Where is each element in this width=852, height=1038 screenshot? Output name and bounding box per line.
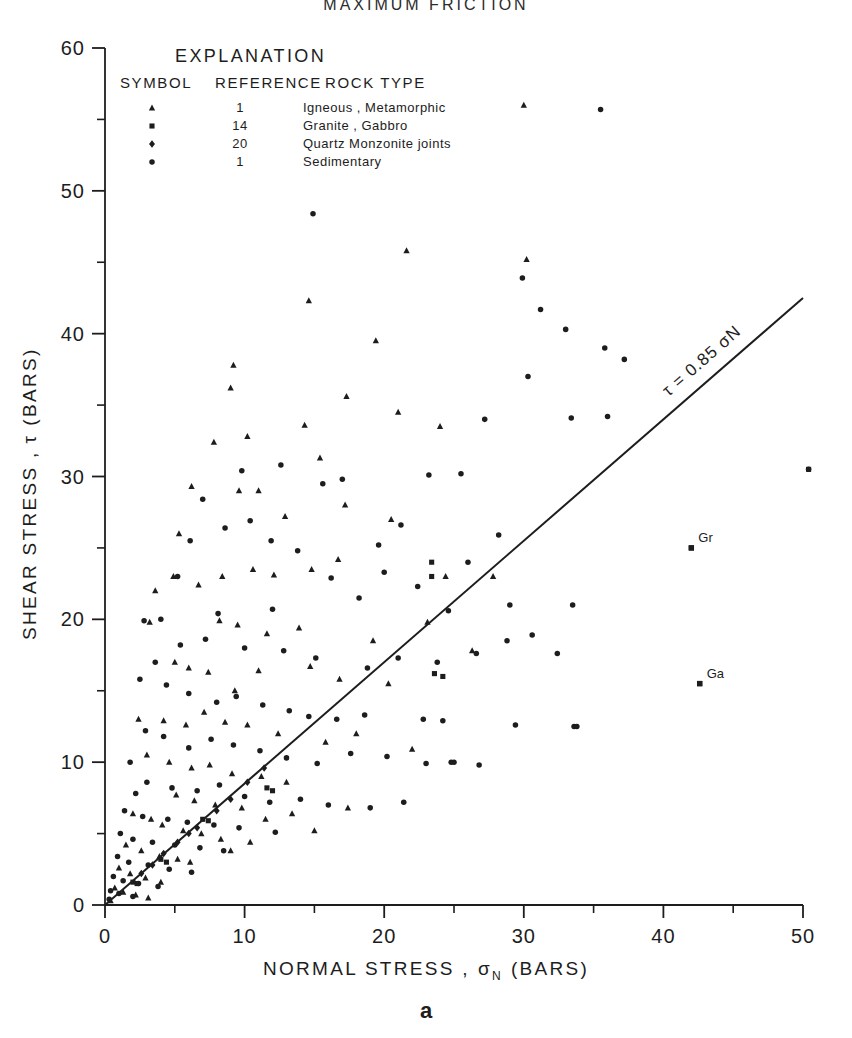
legend-row: 14Granite , Gabbro bbox=[149, 118, 407, 133]
data-point-circle bbox=[525, 374, 531, 380]
data-point-circle bbox=[367, 805, 373, 811]
data-point-circle bbox=[126, 859, 132, 865]
data-point-square bbox=[689, 545, 694, 550]
y-tick-label: 10 bbox=[61, 751, 85, 773]
data-point-triangle bbox=[227, 847, 233, 853]
data-point-circle bbox=[158, 617, 164, 623]
data-point-triangle bbox=[142, 874, 148, 880]
legend-header-reference: REFERENCE bbox=[215, 74, 322, 91]
data-point-circle bbox=[574, 724, 580, 730]
data-point-circle bbox=[538, 307, 544, 313]
data-point-circle bbox=[187, 538, 193, 544]
data-point-circle bbox=[482, 417, 488, 423]
data-point-circle bbox=[598, 107, 604, 113]
figure-title: MAXIMUM FRICTION bbox=[0, 0, 852, 14]
data-point-triangle bbox=[336, 676, 342, 682]
data-point-triangle bbox=[264, 630, 270, 636]
data-point-circle bbox=[602, 345, 608, 351]
data-point-circle bbox=[284, 755, 290, 761]
x-tick-label: 10 bbox=[232, 925, 256, 947]
x-tick-label: 30 bbox=[512, 925, 536, 947]
legend-rock-type: Granite , Gabbro bbox=[303, 118, 408, 133]
data-point-circle bbox=[287, 708, 293, 714]
data-point-circle bbox=[504, 638, 510, 644]
data-point-circle bbox=[306, 714, 312, 720]
data-point-circle bbox=[281, 648, 287, 654]
data-point-circle bbox=[605, 414, 611, 420]
data-point-triangle bbox=[187, 859, 193, 865]
series-triangle bbox=[107, 102, 529, 904]
data-point-triangle bbox=[409, 746, 415, 752]
data-point-triangle bbox=[229, 770, 235, 776]
data-point-triangle bbox=[244, 433, 250, 439]
data-point-triangle bbox=[176, 530, 182, 536]
data-point-circle bbox=[141, 618, 147, 624]
data-point-circle bbox=[236, 825, 242, 831]
data-point-circle bbox=[165, 817, 171, 823]
data-point-circle bbox=[496, 532, 502, 538]
data-point-circle bbox=[365, 665, 371, 671]
data-point-triangle bbox=[521, 102, 527, 108]
data-point-square bbox=[135, 881, 140, 886]
data-point-circle bbox=[278, 462, 284, 468]
data-point-triangle bbox=[343, 393, 349, 399]
data-point-triangle bbox=[307, 663, 313, 669]
data-point-triangle bbox=[135, 716, 141, 722]
y-axis-title-symbol: τ bbox=[19, 434, 40, 444]
series-circle bbox=[106, 107, 811, 902]
y-tick-label: 50 bbox=[61, 180, 85, 202]
data-point-triangle bbox=[145, 894, 151, 900]
data-point-triangle bbox=[160, 717, 166, 723]
data-point-triangle bbox=[306, 297, 312, 303]
data-point-triangle bbox=[342, 502, 348, 508]
data-point-triangle bbox=[230, 362, 236, 368]
data-point-circle bbox=[211, 822, 217, 828]
data-point-triangle bbox=[159, 822, 165, 828]
data-point-circle bbox=[130, 894, 136, 900]
data-point-circle bbox=[111, 874, 117, 880]
data-point-triangle bbox=[244, 722, 250, 728]
data-point-triangle bbox=[271, 572, 277, 578]
data-point-circle bbox=[381, 569, 387, 575]
data-point-circle bbox=[108, 888, 114, 894]
data-point-triangle bbox=[301, 422, 307, 428]
data-point-circle bbox=[268, 538, 274, 544]
data-point-circle bbox=[217, 782, 223, 788]
data-point-circle bbox=[242, 794, 248, 800]
data-point-circle bbox=[395, 655, 401, 661]
data-point-triangle bbox=[174, 856, 180, 862]
data-point-circle bbox=[384, 754, 390, 760]
legend-reference: 1 bbox=[236, 100, 244, 115]
data-point-circle bbox=[273, 829, 279, 835]
data-point-circle bbox=[401, 799, 407, 805]
x-tick-label: 0 bbox=[99, 925, 111, 947]
x-tick-label: 40 bbox=[651, 925, 675, 947]
data-point-circle bbox=[115, 854, 121, 860]
legend-header-symbol: SYMBOL bbox=[120, 74, 192, 91]
data-point-circle bbox=[563, 327, 569, 333]
data-point-circle bbox=[130, 837, 136, 843]
data-point-circle bbox=[197, 845, 203, 851]
data-point-triangle bbox=[258, 773, 264, 779]
data-point-triangle bbox=[311, 827, 317, 833]
data-point-circle bbox=[398, 522, 404, 528]
x-axis-title-subscript: N bbox=[492, 969, 503, 983]
data-point-circle bbox=[434, 659, 440, 665]
point-label: Gr bbox=[698, 530, 713, 545]
data-point-circle bbox=[137, 677, 143, 683]
data-point-triangle bbox=[218, 836, 224, 842]
data-point-circle bbox=[267, 799, 273, 805]
data-point-triangle bbox=[247, 839, 253, 845]
data-point-circle bbox=[161, 734, 167, 740]
data-point-square bbox=[429, 560, 434, 565]
data-point-circle bbox=[465, 559, 471, 565]
data-point-triangle bbox=[127, 870, 133, 876]
data-point-triangle bbox=[283, 779, 289, 785]
data-point-square bbox=[429, 574, 434, 579]
legend-title: EXPLANATION bbox=[175, 46, 326, 66]
data-point-triangle bbox=[222, 719, 228, 725]
data-point-circle bbox=[203, 637, 209, 643]
legend: EXPLANATION SYMBOL REFERENCE ROCK TYPE 1… bbox=[120, 46, 451, 169]
data-point-triangle bbox=[234, 622, 240, 628]
data-point-circle bbox=[320, 481, 326, 487]
